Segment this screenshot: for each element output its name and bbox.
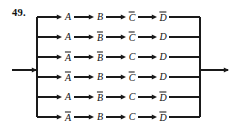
overbar-negation: C: [129, 32, 136, 43]
overbar-negation: C: [129, 72, 136, 83]
row-6-link-1-arrowhead: [89, 114, 94, 119]
overbar-negation: B: [97, 52, 103, 63]
literal-r2-c3: C: [129, 32, 136, 43]
diagram-wires: [0, 0, 233, 136]
row-5-link-3-arrowhead: [152, 94, 157, 99]
literal-r6-c3: C: [129, 112, 136, 122]
overbar-negation: D: [159, 12, 166, 23]
row-1-link-2-arrowhead: [121, 14, 126, 19]
row-1-entry-arrowhead: [57, 14, 62, 19]
overbar-negation: B: [97, 32, 103, 43]
row-5-link-1-arrowhead: [89, 94, 94, 99]
overbar-negation: A: [65, 72, 71, 83]
overbar-negation: D: [159, 112, 166, 123]
row-4-link-1-arrowhead: [89, 74, 94, 79]
overbar-negation: A: [65, 112, 71, 123]
row-2-link-3-arrowhead: [152, 34, 157, 39]
row-4-link-2-arrowhead: [121, 74, 126, 79]
input-arrow-head: [32, 67, 37, 72]
literal-r3-c1: A: [65, 52, 71, 63]
literal-r3-c4: D: [159, 52, 166, 62]
overbar-negation: A: [65, 52, 71, 63]
row-3-link-3-arrowhead: [152, 54, 157, 59]
row-5-entry-arrowhead: [57, 94, 62, 99]
literal-r1-c3: C: [129, 12, 136, 23]
literal-r1-c1: A: [65, 12, 71, 22]
row-3-link-2-arrowhead: [121, 54, 126, 59]
row-2-entry-arrowhead: [57, 34, 62, 39]
logic-network-figure: 49. ABCDABCDABCDABCDABCDABCD: [0, 0, 233, 136]
row-2-link-1-arrowhead: [89, 34, 94, 39]
literal-r4-c3: C: [129, 72, 136, 83]
output-arrow-head: [224, 67, 229, 72]
row-6-link-2-arrowhead: [121, 114, 126, 119]
literal-r5-c2: B: [97, 92, 103, 103]
row-1-link-1-arrowhead: [89, 14, 94, 19]
row-6-entry-arrowhead: [57, 114, 62, 119]
literal-r1-c2: B: [97, 12, 103, 22]
row-6-link-3-arrowhead: [152, 114, 157, 119]
literal-r2-c2: B: [97, 32, 103, 43]
overbar-negation: B: [97, 92, 103, 103]
literal-r6-c2: B: [97, 112, 103, 122]
overbar-negation: D: [159, 92, 166, 103]
literal-r5-c1: A: [65, 92, 71, 102]
literal-r3-c3: C: [129, 52, 136, 62]
row-3-entry-arrowhead: [57, 54, 62, 59]
row-1-link-3-arrowhead: [152, 14, 157, 19]
literal-r6-c1: A: [65, 112, 71, 123]
literal-r3-c2: B: [97, 52, 103, 63]
literal-r1-c4: D: [159, 12, 166, 23]
row-5-link-2-arrowhead: [121, 94, 126, 99]
row-4-entry-arrowhead: [57, 74, 62, 79]
literal-r2-c4: D: [159, 32, 166, 42]
literal-r6-c4: D: [159, 112, 166, 123]
literal-r4-c1: A: [65, 72, 71, 83]
literal-r5-c4: D: [159, 92, 166, 103]
literal-r2-c1: A: [65, 32, 71, 42]
literal-r4-c4: D: [159, 72, 166, 82]
overbar-negation: C: [129, 12, 136, 23]
row-4-link-3-arrowhead: [152, 74, 157, 79]
row-3-link-1-arrowhead: [89, 54, 94, 59]
literal-r4-c2: B: [97, 72, 103, 82]
row-2-link-2-arrowhead: [121, 34, 126, 39]
literal-r5-c3: C: [129, 92, 136, 102]
